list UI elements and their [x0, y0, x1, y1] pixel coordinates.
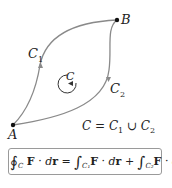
union-c2-sub: 2 — [150, 126, 155, 135]
vector-f-1: F — [90, 155, 98, 168]
dot-op-2: · — [161, 155, 172, 168]
union-equation: C = C1 ∪ C2 — [82, 120, 155, 135]
union-eq: = — [91, 119, 109, 133]
union-cup: ∪ — [123, 119, 141, 133]
equals: = — [58, 155, 74, 168]
union-c1: C — [109, 119, 118, 133]
label-c2-sub: 2 — [120, 90, 125, 99]
int1-sub: C₁ — [82, 162, 90, 170]
union-c2: C — [141, 119, 150, 133]
label-c1-text: C — [28, 46, 38, 61]
integral-symbol-1: ∫ — [74, 153, 82, 171]
label-orientation-c: C — [66, 71, 74, 82]
label-a: A — [8, 128, 17, 141]
label-c2-text: C — [110, 81, 120, 96]
line-integral-formula: ∮C F · dr = ∫C₁F · dr + ∫C₂F · dr — [10, 153, 172, 171]
label-c2: C2 — [110, 82, 125, 99]
contour-sub: C — [18, 162, 23, 170]
union-lhs: C — [82, 119, 91, 133]
vector-f: F — [27, 155, 35, 168]
int2-sub: C₂ — [145, 162, 153, 170]
contour-integral-symbol: ∮ — [10, 153, 18, 171]
d-symbol-1: d — [109, 155, 116, 168]
label-c1-sub: 1 — [38, 55, 43, 64]
label-c1: C1 — [28, 47, 43, 64]
point-b — [115, 18, 119, 22]
plus: + — [121, 155, 137, 168]
label-b: B — [121, 13, 131, 26]
dot-op-1: · — [98, 155, 109, 168]
curve-c1 — [13, 20, 117, 125]
curve-c2 — [13, 20, 117, 125]
dot-op: · — [35, 155, 46, 168]
